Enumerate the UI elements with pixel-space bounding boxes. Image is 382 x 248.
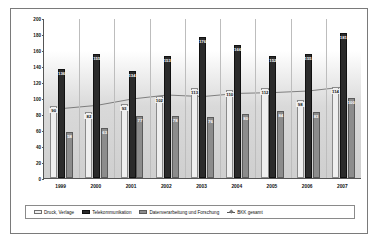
bar-value-label: 78 (171, 118, 180, 123)
bar-value-label: 83 (312, 114, 321, 119)
y-axis-label: 160 (21, 49, 41, 54)
bar-value-label: 136 (57, 71, 66, 76)
bar-value-label: 114 (331, 89, 340, 94)
x-axis-label: 2004 (219, 184, 254, 189)
bar-value-label: 93 (120, 106, 129, 111)
gridline-vertical (326, 19, 327, 178)
bar-value-label: 90 (49, 108, 58, 113)
bar (242, 114, 249, 178)
legend-label: Datenverarbeitung und Forschung (149, 210, 219, 215)
bar-value-label: 84 (276, 113, 285, 118)
bar (199, 37, 206, 178)
bar-value-label: 153 (163, 58, 172, 63)
bar (129, 71, 136, 178)
bar (340, 33, 347, 178)
bar-value-label: 63 (100, 130, 109, 135)
bar-value-label: 102 (155, 98, 164, 103)
x-axis-label: 2005 (254, 184, 289, 189)
bar (226, 90, 233, 178)
bar (172, 116, 179, 178)
bar-value-label: 76 (206, 119, 215, 124)
x-axis-label: 2003 (184, 184, 219, 189)
legend-label: Telekommunikation (92, 210, 131, 215)
legend-label: Druck, Verlage (44, 210, 74, 215)
bar-value-label: 166 (233, 47, 242, 52)
bar (261, 88, 268, 178)
bar-value-label: 152 (268, 58, 277, 63)
legend-swatch-icon (82, 210, 90, 215)
bar (348, 98, 355, 178)
bar-value-label: 110 (225, 92, 234, 97)
bar (58, 69, 65, 178)
bar (93, 54, 100, 178)
y-axis-tick (42, 179, 45, 180)
y-axis: 200180160140120100806040200 (19, 19, 41, 179)
x-axis: 199920002001200220032004200520062007 (43, 183, 361, 195)
legend-swatch-icon (34, 210, 42, 215)
y-axis-tick (42, 35, 45, 36)
bar (313, 112, 320, 178)
gridline-vertical (114, 19, 115, 178)
y-axis-label: 20 (21, 161, 41, 166)
plot-area: 9013658821556393134771021537811317676110… (43, 19, 361, 179)
legend-item[interactable]: Telekommunikation (82, 210, 131, 215)
bar (50, 106, 57, 178)
bar-value-label: 155 (304, 56, 313, 61)
bar-value-label: 58 (65, 134, 74, 139)
y-axis-tick (42, 147, 45, 148)
x-axis-label: 1999 (43, 184, 78, 189)
y-axis-tick (42, 19, 45, 20)
bar-value-label: 82 (84, 114, 93, 119)
bar-value-label: 134 (128, 73, 137, 78)
gridline-vertical (185, 19, 186, 178)
bar (156, 96, 163, 178)
y-axis-tick (42, 163, 45, 164)
bar-value-label: 80 (241, 116, 250, 121)
bar-value-label: 112 (260, 90, 269, 95)
y-axis-label: 0 (21, 177, 41, 182)
bar (332, 87, 339, 178)
legend-label: BKK gesamt (237, 210, 263, 215)
gridline-vertical (79, 19, 80, 178)
y-axis-tick (42, 83, 45, 84)
plot-area-wrapper: 200180160140120100806040200 901365882155… (19, 15, 361, 197)
y-axis-label: 60 (21, 129, 41, 134)
bar (191, 88, 198, 178)
bar-value-label: 100 (347, 100, 356, 105)
y-axis-label: 140 (21, 65, 41, 70)
bar-value-label: 98 (296, 102, 305, 107)
x-axis-label: 2000 (78, 184, 113, 189)
gridline-vertical (291, 19, 292, 178)
chart-legend: Druck, VerlageTelekommunikationDatenvera… (25, 205, 355, 219)
x-axis-label: 2006 (290, 184, 325, 189)
bar-value-label: 181 (339, 35, 348, 40)
legend-swatch-icon (139, 210, 147, 215)
y-axis-label: 200 (21, 17, 41, 22)
bar (277, 111, 284, 178)
gridline-vertical (150, 19, 151, 178)
bar-value-label: 77 (135, 118, 144, 123)
bar (101, 128, 108, 178)
bar (297, 100, 304, 178)
bar-value-label: 155 (92, 56, 101, 61)
bar (121, 104, 128, 178)
y-axis-label: 40 (21, 145, 41, 150)
y-axis-label: 180 (21, 33, 41, 38)
gridline-vertical (220, 19, 221, 178)
x-axis-label: 2002 (149, 184, 184, 189)
legend-item[interactable]: Datenverarbeitung und Forschung (139, 210, 219, 215)
y-axis-label: 80 (21, 113, 41, 118)
y-axis-tick (42, 131, 45, 132)
y-axis-label: 100 (21, 97, 41, 102)
legend-item[interactable]: BKK gesamt (227, 210, 263, 215)
y-axis-label: 120 (21, 81, 41, 86)
bar-value-label: 113 (190, 90, 199, 95)
bar-value-label: 176 (198, 39, 207, 44)
bar (207, 117, 214, 178)
chart-frame: 200180160140120100806040200 901365882155… (10, 8, 368, 234)
y-axis-tick (42, 51, 45, 52)
legend-item[interactable]: Druck, Verlage (34, 210, 74, 215)
y-axis-tick (42, 99, 45, 100)
y-axis-tick (42, 67, 45, 68)
x-axis-label: 2007 (325, 184, 360, 189)
